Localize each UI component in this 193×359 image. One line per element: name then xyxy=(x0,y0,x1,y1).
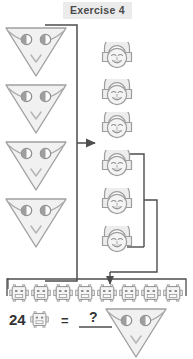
answer-question-mark[interactable]: ? xyxy=(89,310,98,324)
round-face-column xyxy=(103,36,132,252)
round-face-icon[interactable] xyxy=(103,144,132,176)
round-face-icon[interactable] xyxy=(103,182,132,214)
round-face-icon[interactable] xyxy=(103,73,132,105)
equation-number: 24 xyxy=(9,312,26,327)
robot-icon[interactable] xyxy=(164,285,183,301)
robot-row xyxy=(10,285,183,301)
round-face-icon[interactable] xyxy=(103,106,132,138)
robot-icon[interactable] xyxy=(142,285,161,301)
equals-sign: = xyxy=(61,314,69,327)
triangle-alien-column xyxy=(6,28,66,247)
robot-icon[interactable] xyxy=(54,285,73,301)
robot-icon[interactable] xyxy=(98,285,117,301)
robot-icon[interactable] xyxy=(10,285,29,301)
triangle-alien-icon[interactable] xyxy=(6,142,66,190)
exercise-canvas: Exercise 4 xyxy=(0,0,193,359)
round-face-icon[interactable] xyxy=(103,36,132,68)
diagram-artwork xyxy=(0,0,193,359)
equation-robot-icon[interactable] xyxy=(31,312,49,327)
triangle-alien-icon[interactable] xyxy=(6,199,66,247)
equation-triangle-icon[interactable] xyxy=(106,309,166,357)
triangle-alien-icon[interactable] xyxy=(6,85,66,133)
robot-icon[interactable] xyxy=(76,285,95,301)
robot-icon[interactable] xyxy=(32,285,51,301)
robot-icon[interactable] xyxy=(120,285,139,301)
equation-row xyxy=(31,309,166,357)
triangle-alien-icon[interactable] xyxy=(6,28,66,76)
